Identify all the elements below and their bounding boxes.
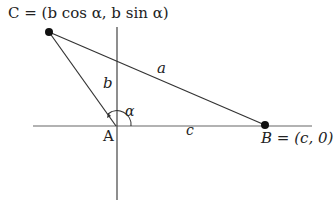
point-b-label: B = (c, 0): [261, 131, 333, 146]
point-a-label: A: [103, 129, 114, 144]
point-b-dot: [261, 121, 269, 129]
side-c-label: c: [186, 123, 194, 137]
side-b-label: b: [103, 76, 113, 91]
diagram-svg: [0, 0, 334, 213]
point-c-label: C = (b cos α, b sin α): [8, 6, 169, 21]
triangle-diagram: C = (b cos α, b sin α) b a α A c B = (c,…: [0, 0, 334, 213]
side-a-label: a: [157, 61, 166, 76]
point-c-dot: [45, 28, 53, 36]
side-a: [49, 32, 265, 125]
angle-alpha-label: α: [125, 104, 134, 118]
